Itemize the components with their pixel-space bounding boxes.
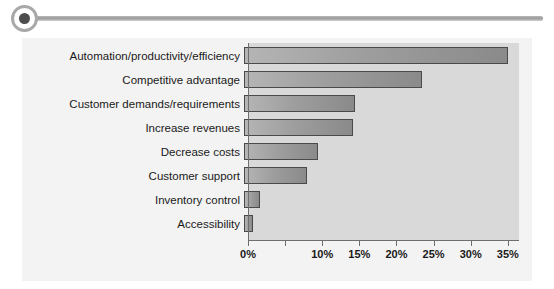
bar-row: Competitive advantage <box>22 68 532 92</box>
axis-tick <box>248 240 249 246</box>
bar-value <box>244 191 260 208</box>
bar-value <box>244 143 318 160</box>
x-axis-line <box>248 240 519 241</box>
bar-track <box>244 212 515 236</box>
axis-tick-label: 25% <box>423 248 445 260</box>
axis-tick-label: 30% <box>460 248 482 260</box>
bar-row: Accessibility <box>22 212 532 236</box>
axis-tick-label: 0% <box>240 248 256 260</box>
bar-track <box>244 44 515 68</box>
category-label: Increase revenues <box>22 116 244 140</box>
bar-value <box>244 119 353 136</box>
axis-tick-label: 15% <box>348 248 370 260</box>
category-label: Inventory control <box>22 188 244 212</box>
filled-circle-icon <box>11 5 38 32</box>
bar-value <box>244 71 422 88</box>
bar-value <box>244 95 355 112</box>
category-label: Competitive advantage <box>22 68 244 92</box>
bar-row: Automation/productivity/efficiency <box>22 44 532 68</box>
bar-track <box>244 188 515 212</box>
axis-tick-label: 20% <box>385 248 407 260</box>
axis-tick <box>322 240 323 246</box>
horizontal-rule-icon <box>30 16 543 21</box>
bar-rows: Automation/productivity/efficiency Compe… <box>22 44 532 236</box>
axis-tick <box>359 240 360 246</box>
category-label: Decrease costs <box>22 140 244 164</box>
axis-tick <box>285 240 286 246</box>
bar-row: Decrease costs <box>22 140 532 164</box>
category-label: Automation/productivity/efficiency <box>22 44 244 68</box>
bar-value <box>244 47 508 64</box>
bar-track <box>244 164 515 188</box>
header-decoration <box>0 0 554 40</box>
axis-tick <box>396 240 397 246</box>
category-label: Customer support <box>22 164 244 188</box>
bar-track <box>244 140 515 164</box>
x-axis: 0%10%15%20%25%30%35% <box>248 240 519 280</box>
axis-tick <box>508 240 509 246</box>
bar-row: Customer demands/requirements <box>22 92 532 116</box>
axis-tick-label: 10% <box>311 248 333 260</box>
bar-chart: Automation/productivity/efficiency Compe… <box>22 38 532 281</box>
bar-row: Increase revenues <box>22 116 532 140</box>
bar-track <box>244 68 515 92</box>
axis-tick <box>471 240 472 246</box>
bar-row: Inventory control <box>22 188 532 212</box>
bar-row: Customer support <box>22 164 532 188</box>
bar-value <box>244 167 307 184</box>
axis-tick-label: 35% <box>497 248 519 260</box>
category-label: Accessibility <box>22 212 244 236</box>
bar-track <box>244 92 515 116</box>
axis-tick <box>434 240 435 246</box>
bar-track <box>244 116 515 140</box>
y-axis-line <box>248 43 249 241</box>
category-label: Customer demands/requirements <box>22 92 244 116</box>
